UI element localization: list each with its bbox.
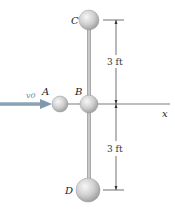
arrowhead-icon bbox=[115, 20, 118, 24]
ball-b-label: B bbox=[74, 86, 82, 97]
velocity-label: v0 bbox=[26, 91, 36, 100]
velocity-arrow-icon bbox=[0, 99, 52, 109]
ball-a bbox=[52, 96, 68, 112]
ball-a-label: A bbox=[41, 86, 49, 97]
arrowhead-icon bbox=[115, 104, 118, 108]
ball-c bbox=[79, 10, 99, 30]
x-axis-label: x bbox=[162, 108, 168, 119]
ball-d bbox=[76, 178, 100, 202]
arrowhead-icon bbox=[115, 186, 118, 190]
ball-b bbox=[80, 95, 98, 113]
arrowhead-icon bbox=[115, 100, 118, 104]
dimension-upper-label: 3 ft bbox=[107, 57, 123, 67]
dimension-lower: 3 ft bbox=[103, 104, 124, 190]
ball-d-label: D bbox=[64, 185, 73, 196]
diagram-canvas: x v0 A B C D 3 ft 3 ft bbox=[0, 0, 175, 211]
dimension-upper: 3 ft bbox=[103, 20, 124, 104]
dimension-lower-label: 3 ft bbox=[107, 144, 123, 154]
ball-c-label: C bbox=[71, 15, 79, 26]
